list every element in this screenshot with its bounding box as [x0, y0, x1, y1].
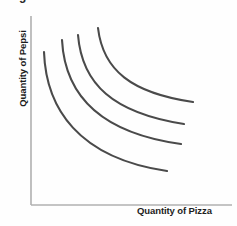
indifference-curve-plot	[0, 0, 237, 226]
indifference-curve-1	[44, 52, 167, 171]
x-axis-label: Quantity of Pizza	[137, 205, 212, 216]
indifference-curve-2	[62, 40, 181, 144]
y-axis-label: Quantity of Pepsi	[17, 14, 28, 124]
figure-container: Figure 21-2 Quantity of Pepsi Quantity o…	[0, 0, 237, 226]
indifference-curve-4	[98, 28, 193, 102]
